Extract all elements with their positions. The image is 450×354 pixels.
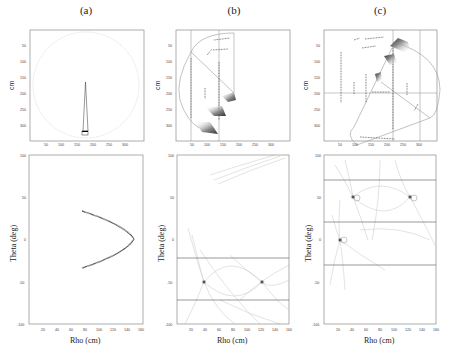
svg-text:100: 100 [204,143,210,147]
svg-text:80: 80 [378,328,382,332]
svg-text:60: 60 [217,328,221,332]
svg-text:140: 140 [419,328,425,332]
svg-text:Rho (cm): Rho (cm) [70,336,101,345]
svg-text:120: 120 [258,328,264,332]
svg-text:100: 100 [315,154,321,158]
svg-text:Rho (cm): Rho (cm) [217,336,248,345]
axes-b-top [176,30,290,141]
svg-text:cm: cm [302,81,309,91]
figure-canvas: 50100150 200250300 50100150 200250300 50… [0,0,450,354]
axes-c-top [324,30,440,145]
svg-text:60: 60 [69,328,73,332]
svg-text:250: 250 [106,143,112,147]
svg-text:Rho (cm): Rho (cm) [364,336,395,345]
svg-text:50: 50 [22,196,26,200]
svg-text:100: 100 [96,328,102,332]
svg-text:100: 100 [20,60,26,64]
svg-text:200: 200 [236,143,242,147]
svg-text:100: 100 [314,60,320,64]
svg-text:40: 40 [350,328,354,332]
svg-text:0: 0 [319,238,321,242]
svg-text:300: 300 [20,124,26,128]
svg-text:140: 140 [272,328,278,332]
svg-text:250: 250 [314,108,320,112]
svg-text:-100: -100 [165,323,172,327]
svg-text:150: 150 [368,143,374,147]
svg-text:300: 300 [268,143,274,147]
svg-text:120: 120 [405,328,411,332]
svg-text:100: 100 [352,143,358,147]
svg-text:150: 150 [314,76,320,80]
svg-text:150: 150 [220,143,226,147]
svg-text:40: 40 [55,328,59,332]
svg-text:250: 250 [400,143,406,147]
svg-text:100: 100 [391,328,397,332]
svg-text:200: 200 [384,143,390,147]
svg-text:80: 80 [83,328,87,332]
svg-text:cm: cm [8,81,15,91]
svg-text:50: 50 [22,44,26,48]
svg-text:120: 120 [110,328,116,332]
svg-text:40: 40 [203,328,207,332]
svg-text:Theta (deg): Theta (deg) [157,225,166,262]
axes-a-bottom [29,155,143,324]
svg-text:200: 200 [314,92,320,96]
svg-text:20: 20 [189,328,193,332]
svg-text:160: 160 [286,328,292,332]
svg-text:0: 0 [24,238,26,242]
svg-text:50: 50 [44,143,48,147]
svg-text:160: 160 [138,328,144,332]
svg-text:50: 50 [168,44,172,48]
svg-text:300: 300 [166,124,172,128]
svg-text:-100: -100 [312,323,319,327]
svg-text:200: 200 [90,143,96,147]
top-ylabels: cm cm cm [8,81,309,91]
svg-text:140: 140 [124,328,130,332]
svg-text:20: 20 [336,328,340,332]
axes-a-top [30,30,144,141]
svg-text:50: 50 [338,143,342,147]
svg-text:300: 300 [416,143,422,147]
svg-text:50: 50 [316,44,320,48]
svg-text:20: 20 [41,328,45,332]
svg-text:cm: cm [154,81,161,91]
svg-text:100: 100 [168,154,174,158]
svg-text:300: 300 [122,143,128,147]
svg-text:250: 250 [166,108,172,112]
top-ticks: 50100150 200250300 50100150 200250300 50… [20,44,422,147]
svg-text:-100: -100 [17,323,24,327]
svg-text:250: 250 [20,108,26,112]
svg-text:-50: -50 [314,281,319,285]
svg-text:100: 100 [58,143,64,147]
svg-text:100: 100 [244,328,250,332]
svg-text:150: 150 [74,143,80,147]
svg-text:-50: -50 [167,281,172,285]
svg-text:200: 200 [20,92,26,96]
svg-text:200: 200 [166,92,172,96]
svg-text:60: 60 [364,328,368,332]
svg-text:250: 250 [252,143,258,147]
svg-text:50: 50 [317,196,321,200]
svg-text:300: 300 [314,124,320,128]
bottom-axis-labels: Rho (cm) Rho (cm) Rho (cm) Theta (deg) T… [9,225,395,345]
svg-text:80: 80 [231,328,235,332]
svg-text:50: 50 [190,143,194,147]
svg-text:100: 100 [166,60,172,64]
svg-text:50: 50 [170,196,174,200]
axes-b-bottom [177,155,289,324]
svg-text:Theta (deg): Theta (deg) [9,225,18,262]
svg-text:Theta (deg): Theta (deg) [304,225,313,262]
svg-text:100: 100 [20,154,26,158]
axes-c-bottom [324,155,436,324]
bottom-ticks: 100500 -50-100 20406080 100120140160 100… [17,154,439,332]
svg-text:160: 160 [433,328,439,332]
svg-text:150: 150 [20,76,26,80]
svg-text:150: 150 [166,76,172,80]
svg-text:0: 0 [172,238,174,242]
svg-text:-50: -50 [19,281,24,285]
